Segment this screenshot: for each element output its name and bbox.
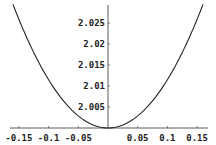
x-tick-label: -0.1 [38, 133, 60, 143]
y-tick-label: 2.005 [78, 102, 105, 112]
x-tick-label: 0.05 [127, 133, 149, 143]
y-tick-label: 2.015 [78, 60, 105, 70]
chart: -0.15-0.1-0.050.050.10.152.0052.012.0152… [0, 0, 216, 145]
y-tick-label: 2.02 [83, 39, 105, 49]
plot-area: -0.15-0.1-0.050.050.10.152.0052.012.0152… [5, 4, 208, 143]
x-tick-label: 0.15 [186, 133, 208, 143]
y-tick-label: 2.01 [83, 81, 105, 91]
x-tick-label: 0.1 [159, 133, 175, 143]
x-tick-label: -0.05 [65, 133, 92, 143]
x-tick-label: -0.15 [5, 133, 32, 143]
y-tick-label: 2.025 [78, 18, 105, 28]
